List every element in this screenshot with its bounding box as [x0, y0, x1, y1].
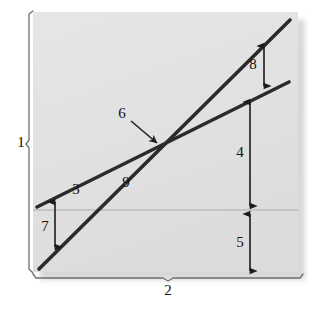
- vertical-axis-bracket: [26, 11, 33, 273]
- axis-label-1: 1: [17, 134, 25, 150]
- dimension-label-7: 7: [41, 218, 49, 234]
- schematic-diagram: 1 2 3 9 6 8 4 5 7: [0, 0, 326, 316]
- dimension-label-8: 8: [249, 56, 257, 72]
- line-label-9: 9: [122, 174, 130, 190]
- line-label-3: 3: [72, 181, 80, 197]
- axis-label-2: 2: [164, 282, 172, 298]
- callout-label-6: 6: [118, 105, 126, 121]
- dimension-label-4: 4: [236, 144, 244, 160]
- dimension-label-5: 5: [236, 234, 244, 250]
